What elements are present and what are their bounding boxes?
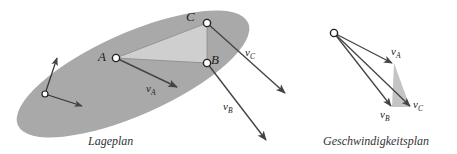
caption-geschwindigkeitsplan: Geschwindigkeitsplan: [323, 134, 429, 148]
label-plan-vC: vC: [413, 98, 424, 113]
pole-point: [330, 29, 337, 36]
kinematics-diagram: A B C vA vB vC Lageplan vA vB vC Geschwi…: [0, 0, 457, 154]
label-B: B: [211, 52, 219, 67]
point-A: [112, 54, 119, 61]
label-A: A: [97, 49, 106, 64]
vector-vA: [334, 33, 392, 63]
rigid-body: [1, 0, 265, 154]
point-B: [203, 59, 210, 66]
label-C: C: [186, 9, 195, 24]
label-plan-vB: vB: [380, 108, 390, 123]
point-C: [203, 19, 210, 26]
vector-vC: [334, 33, 410, 106]
arrow-vB: [207, 63, 266, 140]
label-vB: vB: [223, 100, 233, 115]
vector-vB: [334, 33, 391, 106]
lageplan: A B C vA vB vC Lageplan: [1, 0, 285, 154]
geschwindigkeitsplan: vA vB vC Geschwindigkeitsplan: [323, 29, 429, 148]
velocity-triangle: [392, 63, 410, 107]
caption-lageplan: Lageplan: [87, 134, 133, 148]
label-plan-vA: vA: [391, 45, 401, 60]
